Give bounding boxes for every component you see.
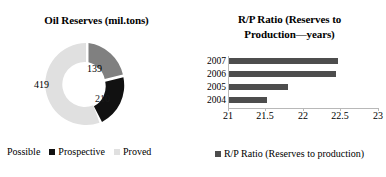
legend-item-rp-ratio: R/P Ratio (Reserves to production) (215, 148, 364, 159)
legend-label-proved: Proved (123, 146, 151, 157)
oil-reserves-chart-panel: Oil Reserves (mil.tons) 139 210 419 Poss… (0, 0, 193, 177)
rp-ratio-y-axis: 2007 2006 2005 2004 (193, 56, 226, 108)
y-tick-2006: 2006 (207, 69, 226, 79)
y-tick-2005: 2005 (207, 82, 226, 92)
rp-ratio-title-line2: Production—years) (193, 27, 386, 42)
x-tick-label-21-5: 21.5 (256, 110, 274, 121)
legend-label-rp-ratio: R/P Ratio (Reserves to production) (224, 148, 364, 159)
doughnut-graphic (43, 41, 129, 127)
legend-swatch-proved-icon (114, 149, 120, 155)
oil-reserves-title: Oil Reserves (mil.tons) (0, 14, 193, 27)
bar-2007 (229, 58, 338, 64)
x-tick-label-23: 23 (373, 110, 383, 121)
legend-item-prospective: Prospective (49, 146, 105, 157)
oil-reserves-legend: Possible Prospective Proved (4, 146, 190, 157)
y-tick-2004: 2004 (207, 95, 226, 105)
legend-item-possible: Possible (4, 146, 40, 157)
y-tick-2007: 2007 (207, 56, 226, 66)
x-tick-label-21: 21 (223, 110, 233, 121)
oil-reserves-doughnut: 139 210 419 (40, 41, 136, 127)
rp-ratio-plot-area (228, 56, 379, 108)
rp-ratio-title-line1: R/P Ratio (Reserves to (193, 12, 386, 27)
slice-label-possible: 139 (87, 63, 102, 74)
x-tick-label-22: 22 (298, 110, 308, 121)
figure-canvas: Oil Reserves (mil.tons) 139 210 419 Poss… (0, 0, 386, 177)
legend-label-possible: Possible (7, 146, 40, 157)
legend-swatch-prospective-icon (49, 149, 55, 155)
rp-ratio-legend: R/P Ratio (Reserves to production) (193, 148, 386, 159)
legend-label-prospective: Prospective (58, 146, 105, 157)
slice-label-proved: 419 (34, 79, 49, 90)
rp-ratio-x-axis-labels: 21 21.5 22 22.5 23 (228, 110, 386, 124)
bar-2005 (229, 84, 288, 90)
slice-label-prospective: 210 (95, 93, 110, 104)
legend-swatch-rp-ratio-icon (215, 151, 221, 157)
bar-2006 (229, 71, 336, 77)
x-tick-label-22-5: 22.5 (331, 110, 349, 121)
legend-item-proved: Proved (114, 146, 151, 157)
rp-ratio-chart-panel: R/P Ratio (Reserves to Production—years)… (193, 0, 386, 177)
bar-2004 (229, 97, 267, 103)
